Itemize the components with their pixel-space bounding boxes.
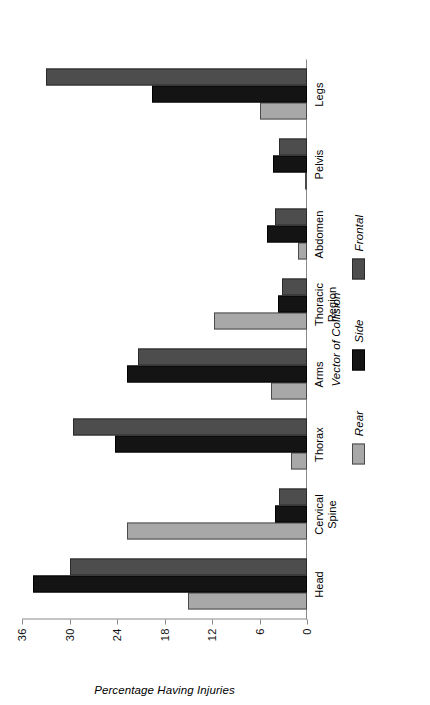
bar-side[interactable] (127, 366, 307, 383)
bar-frontal[interactable] (279, 489, 308, 506)
bar-side[interactable] (115, 436, 307, 453)
bar-rear[interactable] (271, 383, 307, 400)
x-axis-category-label: Legs (313, 59, 326, 129)
y-axis-tick-mark (212, 619, 213, 624)
bar-frontal[interactable] (46, 69, 307, 86)
bar-rear[interactable] (291, 453, 307, 470)
legend-label: Side (353, 319, 365, 342)
y-axis-title: Percentage Having Injuries (22, 683, 307, 699)
bar-rear[interactable] (260, 103, 307, 120)
bar-frontal[interactable] (275, 209, 307, 226)
x-axis-category-label: Arms (313, 339, 326, 409)
bar-frontal[interactable] (138, 349, 307, 366)
chart-stage: Percentage Having Injuries 061218243036H… (0, 0, 430, 705)
legend-title: Vector of Collision (330, 59, 342, 619)
legend-swatch-side (352, 349, 365, 370)
legend-item[interactable]: Rear (352, 410, 365, 463)
y-axis-tick-mark (70, 619, 71, 624)
bar-side[interactable] (33, 576, 307, 593)
bar-frontal[interactable] (70, 559, 307, 576)
x-axis-category-label: Abdomen (313, 199, 326, 269)
bar-rear[interactable] (188, 593, 307, 610)
bar-side[interactable] (275, 506, 307, 523)
legend-swatch-frontal (352, 258, 365, 279)
bar-group (22, 339, 307, 409)
legend-item[interactable]: Frontal (352, 214, 365, 279)
legend: RearSideFrontal (352, 59, 365, 619)
bar-side[interactable] (152, 86, 307, 103)
bar-group (22, 549, 307, 619)
bar-side[interactable] (278, 296, 307, 313)
bar-frontal[interactable] (279, 139, 308, 156)
legend-item[interactable]: Side (352, 319, 365, 370)
bar-group (22, 129, 307, 199)
x-axis-category-label: Head (313, 549, 326, 619)
bar-side[interactable] (267, 226, 307, 243)
bar-rear[interactable] (305, 173, 307, 190)
bar-side[interactable] (273, 156, 307, 173)
x-axis-category-label: Thorax (313, 409, 326, 479)
legend-label: Frontal (353, 214, 365, 251)
y-axis-tick-mark (165, 619, 166, 624)
bar-frontal[interactable] (282, 279, 307, 296)
y-axis-tick-mark (307, 619, 308, 624)
bar-group (22, 269, 307, 339)
legend-swatch-rear (352, 443, 365, 464)
y-axis-tick-mark (117, 619, 118, 624)
bar-group (22, 479, 307, 549)
x-axis-category-label: Pelvis (313, 129, 326, 199)
bar-group (22, 409, 307, 479)
bar-group (22, 59, 307, 129)
y-axis-tick-mark (22, 619, 23, 624)
bar-frontal[interactable] (73, 419, 307, 436)
bar-group (22, 199, 307, 269)
legend-label: Rear (353, 410, 365, 435)
bar-chart-figure: Percentage Having Injuries 061218243036H… (0, 0, 430, 705)
plot-area: 061218243036HeadCervical SpineThoraxArms… (22, 59, 307, 619)
y-axis-tick-mark (260, 619, 261, 624)
bar-rear[interactable] (127, 523, 307, 540)
bar-rear[interactable] (214, 313, 307, 330)
bar-rear[interactable] (298, 243, 308, 260)
